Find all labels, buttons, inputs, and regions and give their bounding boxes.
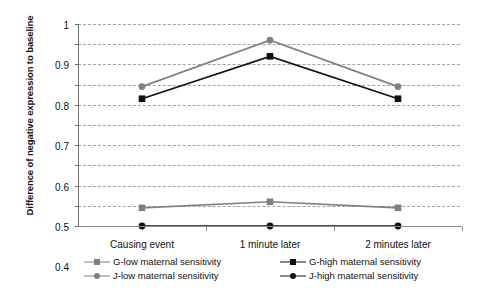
- series-line: [142, 40, 398, 86]
- legend-label: G-low maternal sensitivity: [113, 256, 221, 267]
- data-point-marker: [139, 95, 146, 102]
- legend-marker: [290, 259, 296, 265]
- legend-marker-circle-icon: [84, 271, 110, 281]
- y-axis-tick-label: 0.7: [55, 141, 69, 152]
- plot-area: 00.10.20.30.40.50.60.70.80.91 Causing ev…: [78, 24, 462, 226]
- x-axis: Causing event1 minute later2 minutes lat…: [78, 226, 462, 227]
- legend-entry[interactable]: J-low maternal sensitivity: [84, 270, 280, 281]
- data-point-marker: [267, 37, 274, 44]
- legend-marker: [94, 259, 100, 265]
- data-point-marker: [267, 53, 274, 60]
- chart-figure: Difference of negative expression to bas…: [0, 0, 485, 303]
- x-axis-tick-label: 2 minutes later: [365, 239, 431, 250]
- series-square-808080: [139, 198, 402, 211]
- data-point-marker: [395, 205, 402, 212]
- x-axis-tick: [334, 227, 335, 231]
- y-axis-tick-label: 0.5: [55, 222, 69, 233]
- legend-marker-circle-icon: [280, 271, 306, 281]
- y-axis-tick-label: 0.4: [55, 262, 69, 273]
- legend-label: J-high maternal sensitivity: [309, 270, 418, 281]
- y-axis-tick-label: 0.9: [55, 60, 69, 71]
- y-axis-tick-label: 1: [63, 20, 69, 31]
- series-line: [142, 56, 398, 98]
- y-axis-title: Difference of negative expression to bas…: [24, 1, 35, 231]
- legend-marker-square-icon: [280, 257, 306, 267]
- data-point-marker: [267, 198, 274, 205]
- x-axis-tick: [206, 227, 207, 231]
- y-axis-tick-label: 0.6: [55, 181, 69, 192]
- legend-entry[interactable]: G-low maternal sensitivity: [84, 256, 280, 267]
- legend-label: G-high maternal sensitivity: [309, 256, 421, 267]
- legend-marker: [290, 273, 296, 279]
- legend-marker: [94, 273, 100, 279]
- series-square-111111: [139, 53, 402, 102]
- y-axis-tick-label: 0.8: [55, 100, 69, 111]
- data-point-marker: [395, 83, 402, 90]
- data-point-marker: [139, 83, 146, 90]
- x-axis-end-tick: [462, 227, 463, 231]
- series-circle-808080: [139, 37, 402, 90]
- x-axis-tick-label: Causing event: [110, 239, 174, 250]
- legend-entry[interactable]: G-high maternal sensitivity: [280, 256, 444, 267]
- data-point-marker: [395, 95, 402, 102]
- chart-legend: G-low maternal sensitivityG-high materna…: [84, 256, 444, 281]
- legend-label: J-low maternal sensitivity: [113, 270, 219, 281]
- legend-entry[interactable]: J-high maternal sensitivity: [280, 270, 444, 281]
- legend-marker-square-icon: [84, 257, 110, 267]
- x-axis-tick-label: 1 minute later: [240, 239, 301, 250]
- data-point-marker: [139, 205, 146, 212]
- series-layer: [78, 24, 462, 226]
